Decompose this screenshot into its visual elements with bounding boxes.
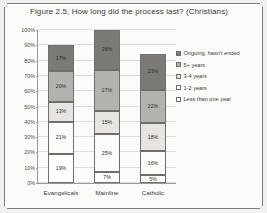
y-axis-tick-label: 80% xyxy=(24,58,35,64)
y-axis-tick-mark xyxy=(36,76,38,77)
y-axis-tick-mark xyxy=(36,61,38,62)
bar-segment-value-label: 16% xyxy=(148,161,158,166)
bar-segment[interactable]: 20% xyxy=(48,71,74,102)
legend-item[interactable]: 1-2 years xyxy=(176,85,258,91)
bar-segment-value-label: 13% xyxy=(56,109,66,114)
bar-segment-value-label: 19% xyxy=(56,166,66,171)
y-axis-tick-label: 0% xyxy=(27,180,35,186)
bar-segment[interactable]: 22% xyxy=(140,90,166,124)
page-corner-top-left xyxy=(0,0,7,7)
bar-segment-value-label: 18% xyxy=(148,135,158,140)
legend-swatch-icon xyxy=(176,97,181,102)
bar-segment[interactable]: 15% xyxy=(94,111,120,134)
bar-segment[interactable]: 23% xyxy=(140,54,166,89)
y-axis-tick-label: 20% xyxy=(24,149,35,155)
bar-segment-value-label: 7% xyxy=(103,175,111,180)
y-axis-tick-label: 90% xyxy=(24,42,35,48)
y-axis-tick-mark xyxy=(36,30,38,31)
plot-area: 0%10%20%30%40%50%60%70%80%90%100%19%21%1… xyxy=(37,30,176,184)
page-corner-bottom-left xyxy=(0,206,7,213)
chart-title: Figure 2.5, How long did the process las… xyxy=(10,7,248,16)
y-axis-tick-mark xyxy=(36,168,38,169)
legend-item-label: 5+ years xyxy=(184,62,206,68)
y-axis-tick-label: 30% xyxy=(24,134,35,140)
y-axis-tick-label: 100% xyxy=(21,27,35,33)
legend-item[interactable]: Ongoing, hasn't ended xyxy=(176,50,258,56)
bar-segment[interactable]: 19% xyxy=(48,154,74,183)
y-axis-tick-mark xyxy=(36,183,38,184)
bar-evangelicals[interactable]: 19%21%13%20%17%Evangelicals xyxy=(48,30,74,183)
bar-mainline[interactable]: 7%25%15%27%26%Mainline xyxy=(94,30,120,183)
bar-segment-value-label: 15% xyxy=(102,120,112,125)
bar-segment-value-label: 25% xyxy=(102,151,112,156)
y-axis-tick-label: 70% xyxy=(24,73,35,79)
legend-swatch-icon xyxy=(176,74,181,79)
y-axis-tick-mark xyxy=(36,91,38,92)
bar-segment-value-label: 21% xyxy=(56,135,66,140)
chart-legend: Ongoing, hasn't ended5+ years3-4 years1-… xyxy=(176,50,258,108)
y-axis-tick-label: 40% xyxy=(24,119,35,125)
bar-segment-value-label: 27% xyxy=(102,88,112,93)
page-corner-top-right xyxy=(260,0,267,7)
y-axis-tick-label: 10% xyxy=(24,165,35,171)
bar-segment-value-label: 26% xyxy=(102,47,112,52)
legend-item-label: Less than one year xyxy=(184,96,232,102)
y-axis-tick-mark xyxy=(36,107,38,108)
y-axis-tick-mark xyxy=(36,122,38,123)
bar-segment-value-label: 20% xyxy=(56,84,66,89)
y-axis-tick-label: 60% xyxy=(24,88,35,94)
bar-segment[interactable]: 5% xyxy=(140,175,166,183)
legend-item[interactable]: Less than one year xyxy=(176,96,258,102)
y-axis-tick-label: 50% xyxy=(24,104,35,110)
bar-segment[interactable]: 13% xyxy=(48,102,74,122)
bar-segment[interactable]: 26% xyxy=(94,30,120,70)
legend-item-label: Ongoing, hasn't ended xyxy=(184,50,240,56)
y-axis-tick-mark xyxy=(36,137,38,138)
bar-segment-value-label: 5% xyxy=(149,177,157,182)
y-axis-tick-mark xyxy=(36,152,38,153)
bar-catholic[interactable]: 5%16%18%22%23%Catholic xyxy=(140,30,166,183)
legend-swatch-icon xyxy=(176,85,181,90)
page-corner-bottom-right xyxy=(260,206,267,213)
bar-segment[interactable]: 21% xyxy=(48,122,74,154)
x-axis-category-label: Catholic xyxy=(126,189,180,196)
legend-swatch-icon xyxy=(176,51,181,56)
legend-item-label: 3-4 years xyxy=(184,73,207,79)
chart-screenshot: Figure 2.5, How long did the process las… xyxy=(0,0,267,213)
bar-segment[interactable]: 27% xyxy=(94,70,120,111)
legend-item[interactable]: 5+ years xyxy=(176,62,258,68)
bar-segment[interactable]: 16% xyxy=(140,151,166,175)
bar-segment-value-label: 17% xyxy=(56,56,66,61)
bar-segment-value-label: 23% xyxy=(148,69,158,74)
bar-segment[interactable]: 7% xyxy=(94,172,120,183)
y-axis-tick-mark xyxy=(36,45,38,46)
legend-swatch-icon xyxy=(176,62,181,67)
bar-segment[interactable]: 25% xyxy=(94,134,120,172)
bar-segment[interactable]: 17% xyxy=(48,45,74,71)
bar-segment[interactable]: 18% xyxy=(140,123,166,151)
legend-item[interactable]: 3-4 years xyxy=(176,73,258,79)
bar-segment-value-label: 22% xyxy=(148,104,158,109)
legend-item-label: 1-2 years xyxy=(184,85,207,91)
